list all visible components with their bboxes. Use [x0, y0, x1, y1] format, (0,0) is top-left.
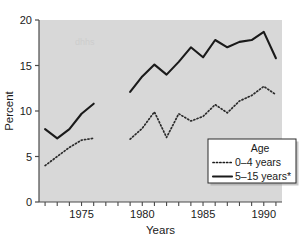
- y-tick-label: 15: [20, 60, 32, 72]
- x-tick-label: 1990: [252, 208, 276, 220]
- x-tick-label: 1975: [69, 208, 93, 220]
- watermark-artifact: dhhs: [75, 37, 95, 47]
- legend-entry-label: 5–15 years*: [235, 170, 291, 182]
- y-tick-label: 0: [26, 196, 32, 208]
- x-tick-label: 1980: [130, 208, 154, 220]
- y-axis-title: Percent: [3, 90, 15, 130]
- y-tick-label: 10: [20, 105, 32, 117]
- x-axis-title: Years: [146, 224, 175, 236]
- legend-title: Age: [251, 142, 270, 154]
- legend-entry-label: 0–4 years: [235, 156, 281, 168]
- y-tick-label: 5: [26, 151, 32, 163]
- chart-legend[interactable]: Age0–4 years5–15 years*: [208, 139, 299, 186]
- y-tick-label: 20: [20, 14, 32, 26]
- x-tick-label: 1985: [191, 208, 215, 220]
- figure-container: dhhs 05101520 1975198019851990 Percent Y…: [0, 0, 305, 248]
- line-chart: dhhs 05101520 1975198019851990 Percent Y…: [0, 0, 305, 248]
